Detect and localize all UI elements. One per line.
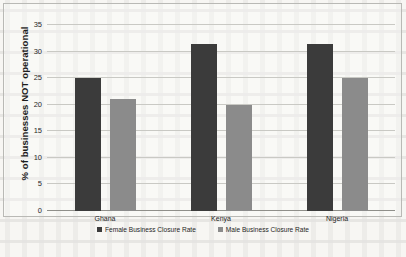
x-axis-category-label: Nigeria	[326, 215, 348, 222]
bar-nigeria-female	[307, 44, 333, 211]
bars-layer: GhanaKenyaNigeria	[47, 25, 395, 211]
chart-legend: Female Business Closure RateMale Busines…	[0, 226, 406, 233]
bar-kenya-male	[226, 105, 252, 211]
bar-chart: % of businesses NOT operational 05101520…	[0, 0, 406, 257]
legend-label: Male Business Closure Rate	[226, 226, 309, 233]
y-axis-tick-label: 5	[38, 179, 42, 188]
x-axis-category-label: Kenya	[211, 215, 231, 222]
bar-ghana-male	[110, 99, 136, 211]
bar-kenya-female	[191, 44, 217, 211]
bar-nigeria-male	[342, 78, 368, 211]
bar-group: Nigeria	[279, 25, 395, 211]
y-axis-tick-label: 25	[34, 73, 42, 82]
legend-item-male: Male Business Closure Rate	[218, 226, 309, 233]
y-axis-tick-label: 10	[34, 152, 42, 161]
legend-swatch-icon	[97, 227, 102, 232]
bar-group: Ghana	[47, 25, 163, 211]
bar-ghana-female	[75, 78, 101, 211]
legend-swatch-icon	[218, 227, 223, 232]
y-axis-tick-label: 30	[34, 46, 42, 55]
y-axis-tick-label: 35	[34, 20, 42, 29]
y-axis-tick-label: 20	[34, 99, 42, 108]
legend-label: Female Business Closure Rate	[105, 226, 196, 233]
bar-group: Kenya	[163, 25, 279, 211]
y-axis-title: % of businesses NOT operational	[19, 14, 30, 194]
legend-item-female: Female Business Closure Rate	[97, 226, 196, 233]
y-axis-tick-label: 15	[34, 126, 42, 135]
y-axis-tick-label: 0	[38, 206, 42, 215]
plot-area: 05101520253035 GhanaKenyaNigeria	[47, 25, 395, 211]
x-axis-category-label: Ghana	[94, 215, 115, 222]
